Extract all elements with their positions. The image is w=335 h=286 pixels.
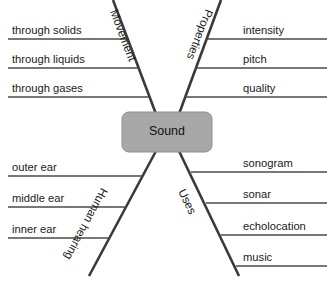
leaf-label-through-solids: through solids <box>12 25 82 36</box>
leaf-label-through-liquids: through liquids <box>12 54 85 65</box>
leaf-label-sonogram: sonogram <box>243 158 293 169</box>
diagram-lines-layer <box>0 0 335 286</box>
leaf-label-echolocation: echolocation <box>243 221 306 232</box>
leaf-label-inner-ear: inner ear <box>12 224 56 235</box>
leaf-label-pitch: pitch <box>243 54 267 65</box>
leaf-label-intensity: intensity <box>243 25 284 36</box>
leaf-label-through-gases: through gases <box>12 83 83 94</box>
leaf-label-music: music <box>243 252 272 263</box>
center-node-label: Sound <box>122 125 212 137</box>
mind-map-diagram: Sound Movement Properties Human hearing … <box>0 0 335 286</box>
leaf-label-sonar: sonar <box>243 189 271 200</box>
leaf-label-middle-ear: middle ear <box>12 193 64 204</box>
leaf-label-outer-ear: outer ear <box>12 162 57 173</box>
leaf-label-quality: quality <box>243 83 275 94</box>
